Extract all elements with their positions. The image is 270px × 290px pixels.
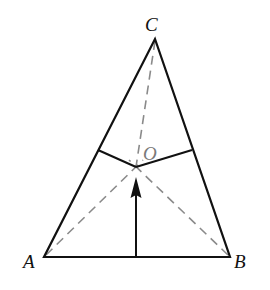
label-B: B (234, 251, 246, 272)
label-C: C (145, 14, 158, 35)
arrow-up-icon (131, 177, 142, 198)
label-A: A (21, 251, 35, 272)
segment-O-to-AC (98, 150, 136, 167)
triangle-diagram: C A B O (0, 0, 270, 290)
dashed-line-A-O (46, 160, 143, 255)
label-O: O (143, 143, 157, 164)
vertical-arrow (131, 177, 142, 257)
